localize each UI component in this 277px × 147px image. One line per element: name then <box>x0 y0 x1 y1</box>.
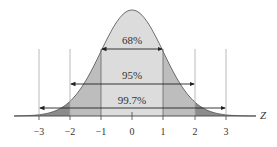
tick-label-neg1: −1 <box>96 126 107 137</box>
axis-label-z: Z <box>260 109 267 121</box>
tick-label-3: 3 <box>224 126 229 137</box>
tick-label-neg3: −3 <box>34 126 45 137</box>
tick-label-0: 0 <box>130 126 135 137</box>
label-95: 95% <box>122 69 142 81</box>
tick-label-neg2: −2 <box>65 126 76 137</box>
normal-distribution-figure: 68% 95% 99.7% Z −3 −2 −1 0 1 2 3 <box>0 0 277 147</box>
tick-label-1: 1 <box>161 126 166 137</box>
label-68: 68% <box>122 34 142 46</box>
bell-curve-diagram: 68% 95% 99.7% Z −3 −2 −1 0 1 2 3 <box>0 0 277 147</box>
tick-label-2: 2 <box>193 126 198 137</box>
label-997: 99.7% <box>118 94 146 106</box>
